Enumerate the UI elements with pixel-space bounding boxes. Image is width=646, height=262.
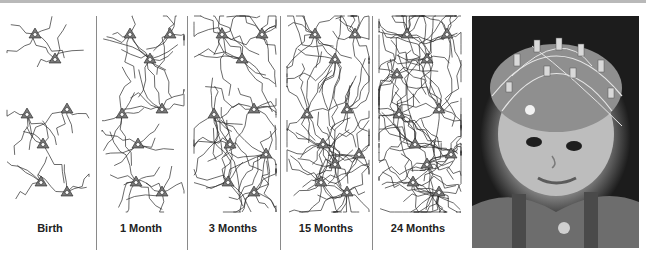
neuron-soma <box>164 28 176 38</box>
neuron-soma <box>208 108 220 118</box>
neuron-soma <box>421 53 433 63</box>
neuron-soma <box>401 28 413 38</box>
neuron-network-4 <box>285 14 371 214</box>
neuron-soma <box>35 176 47 186</box>
neuron-network-2 <box>100 14 186 214</box>
neuron-soma <box>61 103 73 113</box>
panel-divider <box>96 16 97 250</box>
neuron-soma <box>341 103 353 113</box>
label-1-month: 1 Month <box>96 222 186 234</box>
top-border <box>0 0 646 3</box>
neuron-soma <box>49 53 61 63</box>
neuron-soma <box>309 28 321 38</box>
neuron-soma <box>301 108 313 118</box>
panel-divider <box>187 16 188 250</box>
label-15-months: 15 Months <box>281 222 371 234</box>
neuron-soma <box>407 176 419 186</box>
neuron-soma <box>441 28 453 38</box>
infant-eeg-photo <box>472 16 639 248</box>
label-24-months: 24 Months <box>373 222 463 234</box>
neuron-network-1 <box>5 14 91 214</box>
eeg-cap-illustration <box>472 16 639 248</box>
neuron-soma <box>130 176 142 186</box>
label-3-months: 3 Months <box>188 222 278 234</box>
neuron-soma <box>61 186 73 196</box>
neuron-soma <box>29 28 41 38</box>
label-birth: Birth <box>5 222 95 234</box>
neuron-network-3 <box>192 14 278 214</box>
neuron-soma <box>260 148 272 158</box>
neuron-soma <box>409 138 421 148</box>
neuron-soma <box>248 186 260 196</box>
neuron-soma <box>21 108 33 118</box>
neuron-soma <box>256 28 268 38</box>
neuron-soma <box>393 108 405 118</box>
panel-divider <box>372 16 373 250</box>
neuron-network-5 <box>377 14 463 214</box>
neuron-soma <box>433 186 445 196</box>
neuron-soma <box>124 28 136 38</box>
neuron-soma <box>132 138 144 148</box>
panel-divider <box>280 16 281 250</box>
